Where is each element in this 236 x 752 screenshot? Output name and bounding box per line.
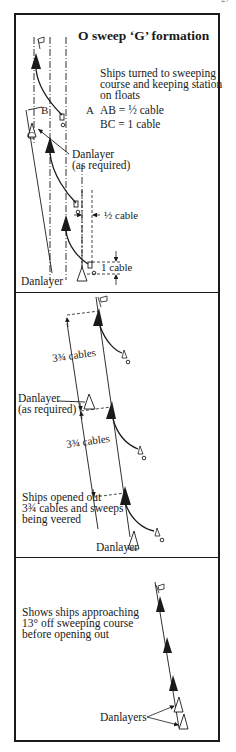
- danlayer-ship: [77, 267, 87, 281]
- danlayer-label: Danlayer: [21, 275, 63, 287]
- sweeper-ship-2: [106, 401, 146, 460]
- panel-stage-2: 3¾ cables Danlayer (as required) 3¾ cabl…: [16, 293, 218, 558]
- danlayer-pointers: [147, 706, 178, 725]
- formation-diagram-stage-1: [16, 15, 218, 292]
- half-cable-label: ½ cable: [104, 209, 138, 221]
- danlayers-label: Danlayers: [100, 711, 147, 723]
- panel-stage-1: O sweep ‘G’ formation Ships turned to sw…: [16, 15, 218, 293]
- danlayer-ship-2: [179, 714, 188, 729]
- panel-stage-3: Shows ships approaching 13° off sweeping…: [16, 558, 218, 740]
- equation-ab: AB = ½ cable: [100, 104, 164, 116]
- one-cable-label: 1 cable: [101, 261, 132, 273]
- caption-line: before opening out: [22, 628, 109, 640]
- page-number: 27: [221, 0, 230, 4]
- danlayer-optional-note: (as required): [72, 159, 130, 171]
- point-label-a: A: [86, 104, 94, 116]
- caption-line: being veered: [22, 513, 81, 525]
- figure-frame: O sweep ‘G’ formation Ships turned to sw…: [14, 13, 220, 742]
- danlayer-optional-note: (as required): [18, 403, 76, 415]
- caption-line: on floats: [100, 89, 140, 101]
- figure-title: O sweep ‘G’ formation: [78, 30, 209, 42]
- equation-bc: BC = 1 cable: [100, 118, 160, 130]
- danlayer-label: Danlayer: [96, 541, 138, 553]
- point-label-c: C: [27, 129, 34, 141]
- point-label-b: B: [41, 104, 48, 116]
- sweeper-ship-1: [93, 296, 130, 364]
